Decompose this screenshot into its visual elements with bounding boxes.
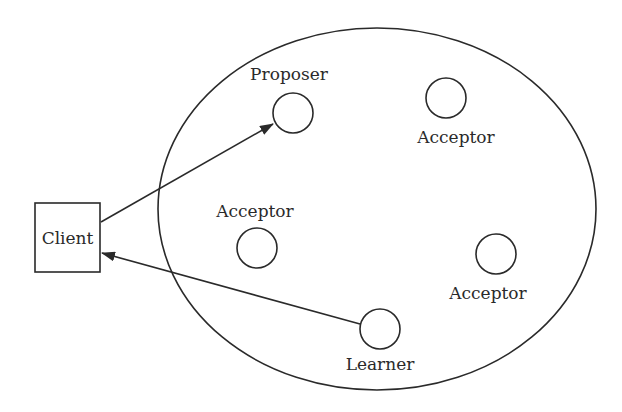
proposer-node: Proposer [250,64,329,133]
learner-node: Learner [346,309,416,374]
edge-learner-to-client-arrow [102,253,360,324]
acceptor-left-circle [237,228,277,268]
client-label: Client [42,228,94,248]
acceptor-right-node: Acceptor [448,234,527,303]
acceptor-top-label: Acceptor [416,127,495,147]
acceptor-top-node: Acceptor [416,78,495,147]
acceptor-right-circle [476,234,516,274]
acceptor-left-label: Acceptor [215,201,294,221]
acceptor-right-label: Acceptor [448,283,527,303]
proposer-label: Proposer [250,64,329,84]
proposer-circle [273,93,313,133]
acceptor-left-node: Acceptor [215,201,294,268]
client-node: Client [35,203,100,272]
learner-label: Learner [346,354,416,374]
learner-circle [360,309,400,349]
paxos-diagram: Client Proposer Acceptor Acceptor Accept… [0,0,622,412]
acceptor-top-circle [426,78,466,118]
